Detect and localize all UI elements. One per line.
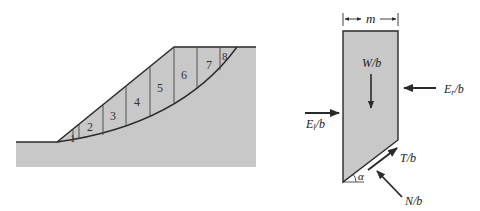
slice-label: 8 — [222, 50, 228, 62]
left-force-label: El/b — [305, 117, 325, 132]
slice-label: 2 — [87, 120, 93, 134]
slice-label: 6 — [181, 68, 187, 82]
normal-force-label: N/b — [404, 194, 422, 208]
angle-label: α — [358, 170, 364, 182]
slice-label: 5 — [157, 81, 163, 95]
shear-force-label: T/b — [400, 151, 416, 165]
slice-label: 7 — [206, 58, 212, 72]
angle-arc — [353, 174, 356, 182]
slice-label: 1 — [70, 132, 76, 144]
slope-diagram: 1 2 3 4 5 6 7 8 — [16, 47, 256, 167]
right-force-label: Er/b — [443, 82, 464, 97]
weight-label: W/b — [362, 56, 381, 70]
slice-label: 3 — [110, 109, 116, 123]
slice-free-body-diagram: m W/b Er/b El/b T/b N/b α — [305, 11, 464, 208]
width-label: m — [366, 11, 375, 26]
normal-force-arrow — [377, 171, 402, 197]
slice-label: 4 — [134, 95, 140, 109]
